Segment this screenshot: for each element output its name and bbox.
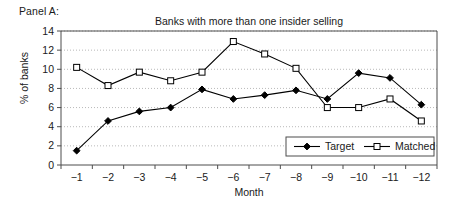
data-point-marker [261, 92, 268, 99]
data-point-marker [262, 51, 268, 57]
data-point-marker [136, 69, 142, 75]
x-tick-label: −12 [412, 171, 430, 183]
data-point-marker [324, 105, 330, 111]
legend-label: Matched [395, 140, 435, 152]
data-point-marker [74, 64, 80, 70]
x-tick-label: −1 [71, 171, 83, 183]
x-tick-label: −7 [259, 171, 271, 183]
legend-label: Target [325, 140, 354, 152]
y-tick-label: 6 [48, 101, 54, 113]
series-matched [74, 39, 425, 124]
y-tick-label: 4 [48, 120, 54, 132]
data-point-marker [199, 69, 205, 75]
y-tick-label: 0 [48, 159, 54, 171]
data-point-marker [356, 105, 362, 111]
data-point-marker [199, 86, 206, 93]
x-tick-label: −6 [227, 171, 239, 183]
x-axis-label: Month [61, 186, 437, 198]
line-chart-plot: 02468101214 −1−2−3−4−5−6−7−8−9−10−11−12 … [0, 0, 456, 205]
data-point-marker [105, 83, 111, 89]
x-tick-label: −2 [102, 171, 114, 183]
data-point-marker [230, 96, 237, 103]
data-point-marker [136, 108, 143, 115]
panel-label: Panel A: [19, 5, 59, 17]
x-tick-label: −11 [381, 171, 398, 183]
y-axis-label: % of banks [18, 38, 30, 118]
y-tick-label: 8 [48, 82, 54, 94]
data-point-marker [293, 65, 299, 71]
data-point-marker [387, 96, 393, 102]
data-point-marker [167, 104, 174, 111]
y-tick-label: 14 [42, 25, 54, 37]
y-tick-label: 10 [42, 63, 54, 75]
data-point-marker [418, 118, 424, 124]
data-point-marker [230, 39, 236, 45]
x-tick-label: −4 [165, 171, 177, 183]
x-tick-label: −3 [133, 171, 145, 183]
x-tick-label: −8 [290, 171, 302, 183]
y-axis: 02468101214 [42, 25, 61, 171]
chart-title: Banks with more than one insider selling [61, 15, 437, 27]
y-tick-label: 2 [48, 139, 54, 151]
x-tick-label: −10 [350, 171, 368, 183]
x-axis: −1−2−3−4−5−6−7−8−9−10−11−12 [61, 165, 437, 183]
x-tick-label: −9 [321, 171, 333, 183]
data-point-marker [168, 78, 174, 84]
x-tick-label: −5 [196, 171, 208, 183]
y-tick-label: 12 [42, 44, 54, 56]
figure-panel-a: Panel A: Banks with more than one inside… [0, 0, 456, 205]
data-point-marker [293, 87, 300, 94]
chart-legend: TargetMatched [286, 137, 435, 156]
legend-marker [374, 144, 380, 150]
